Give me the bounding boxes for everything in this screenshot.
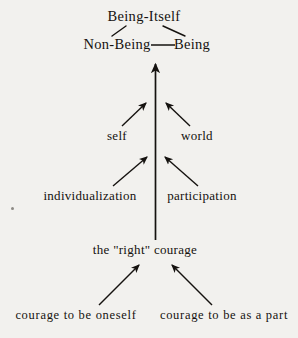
node-self: self (107, 129, 127, 142)
node-being: Being (174, 37, 210, 52)
node-right-courage: the "right" courage (93, 243, 197, 256)
page-speck-artifact (11, 207, 14, 210)
node-non-being: Non-Being (83, 37, 150, 52)
node-courage-to-be-as-a-part: courage to be as a part (160, 309, 288, 322)
edge-being-itself-to-non-being (112, 26, 126, 36)
edge-being-itself-to-being (163, 26, 185, 36)
node-world: world (181, 129, 213, 142)
edge-courage-part-to-right-courage (172, 265, 212, 305)
edge-world-to-axis (166, 103, 190, 126)
diagram-canvas: Being-Itself Non-Being Being self world … (0, 0, 298, 338)
node-being-itself: Being-Itself (108, 9, 181, 24)
edge-self-to-axis (122, 103, 146, 126)
edge-individualization-to-axis (113, 157, 147, 186)
node-individualization: individualization (43, 189, 136, 202)
edge-participation-to-axis (165, 157, 198, 186)
node-courage-to-be-oneself: courage to be oneself (15, 309, 136, 322)
edge-courage-oneself-to-right-courage (99, 265, 139, 305)
node-participation: participation (167, 189, 237, 202)
